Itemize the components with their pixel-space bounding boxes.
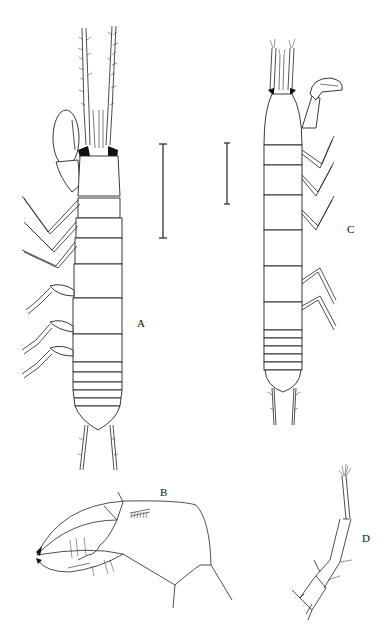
panel-d-drawing xyxy=(292,464,352,620)
panel-label-b: B xyxy=(160,487,167,498)
panel-c-carapace xyxy=(264,94,302,145)
panel-b-drawing xyxy=(36,492,232,608)
panel-a-uropods xyxy=(78,425,118,470)
panel-a-cheliped xyxy=(53,110,80,192)
panel-a-pereopods xyxy=(22,196,80,378)
panel-c-antennae xyxy=(270,39,295,90)
panel-c-drawing xyxy=(264,39,342,425)
figure-plate: A B C D xyxy=(0,0,388,624)
panel-label-a: A xyxy=(137,318,145,329)
panel-a-pereon xyxy=(73,198,122,362)
panel-a-drawing xyxy=(22,26,122,470)
panel-c-pereon xyxy=(264,145,302,330)
panel-a-carapace xyxy=(78,156,120,196)
panel-c-pereopods xyxy=(302,136,336,330)
figure-drawing xyxy=(0,0,388,624)
panel-a-antennae xyxy=(78,26,118,148)
panel-label-d: D xyxy=(362,533,370,544)
panel-a-pleon xyxy=(73,362,122,430)
panel-c-cheliped xyxy=(302,78,342,128)
panel-label-c: C xyxy=(347,224,354,235)
panel-c-pleon xyxy=(264,330,302,392)
panel-c-uropods xyxy=(268,388,300,425)
